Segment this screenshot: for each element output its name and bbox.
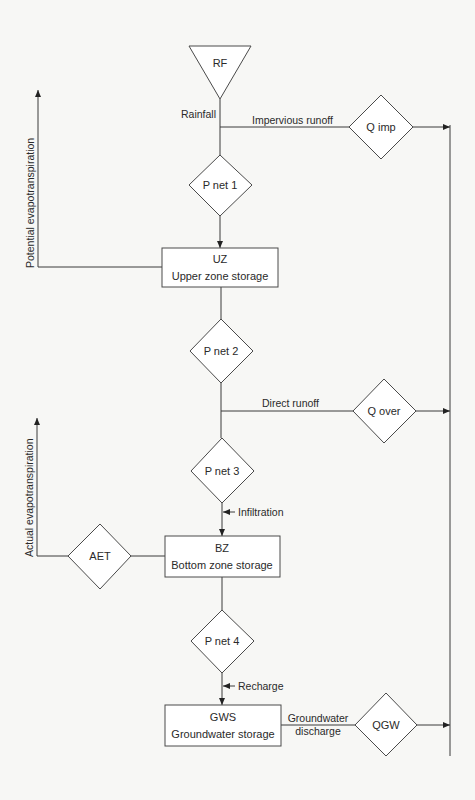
- node-qover[interactable]: Q over: [353, 379, 416, 443]
- node-gws[interactable]: GWS Groundwater storage: [165, 705, 281, 746]
- rainfall-label: Rainfall: [181, 108, 216, 120]
- node-pnet2[interactable]: P net 2: [190, 319, 253, 383]
- uz-label: Upper zone storage: [172, 270, 269, 282]
- gws-label: Groundwater storage: [171, 728, 274, 740]
- qimp-label: Q imp: [366, 121, 395, 133]
- aet-label: AET: [89, 550, 111, 562]
- bz-code: BZ: [215, 542, 229, 554]
- node-pnet4[interactable]: P net 4: [191, 610, 254, 673]
- infiltration-label: Infiltration: [238, 506, 284, 518]
- actual-et-arrow: [37, 418, 68, 556]
- potential-et-label: Potential evapotranspiration: [24, 138, 36, 268]
- node-uz[interactable]: UZ Upper zone storage: [162, 248, 278, 287]
- flowchart-canvas: RF P net 1 Q imp UZ Upper zone storage P…: [0, 0, 475, 800]
- rf-triangle-shape: [189, 46, 251, 99]
- actual-et-label: Actual evapotranspiration: [23, 438, 35, 557]
- recharge-label: Recharge: [238, 680, 284, 692]
- node-pnet1[interactable]: P net 1: [189, 155, 252, 216]
- gws-code: GWS: [210, 711, 236, 723]
- node-aet[interactable]: AET: [68, 524, 131, 589]
- node-rf[interactable]: RF: [189, 46, 251, 99]
- impervious-runoff-label: Impervious runoff: [252, 114, 333, 126]
- groundwater-discharge-label-line2: discharge: [295, 725, 341, 737]
- groundwater-discharge-label-line1: Groundwater: [288, 712, 349, 724]
- potential-et-arrow: [38, 90, 162, 267]
- pnet2-label: P net 2: [204, 345, 239, 357]
- rf-label: RF: [213, 57, 228, 69]
- qgw-label: QGW: [372, 719, 400, 731]
- uz-code: UZ: [213, 253, 228, 265]
- node-qgw[interactable]: QGW: [355, 693, 417, 756]
- node-pnet3[interactable]: P net 3: [191, 438, 254, 503]
- node-bz[interactable]: BZ Bottom zone storage: [165, 536, 280, 577]
- direct-runoff-label: Direct runoff: [262, 397, 319, 409]
- pnet4-label: P net 4: [205, 635, 240, 647]
- qover-label: Q over: [367, 405, 400, 417]
- node-qimp[interactable]: Q imp: [349, 95, 413, 159]
- bz-label: Bottom zone storage: [171, 559, 273, 571]
- pnet1-label: P net 1: [203, 179, 238, 191]
- pnet3-label: P net 3: [205, 465, 240, 477]
